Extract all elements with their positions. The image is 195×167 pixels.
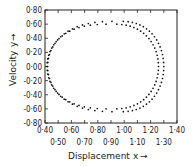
data-point — [156, 54, 158, 56]
data-point — [61, 96, 63, 98]
data-point — [163, 62, 165, 64]
data-point — [151, 33, 153, 35]
data-point — [65, 99, 67, 101]
y-tick-label: -0·60 — [23, 105, 42, 114]
data-point — [151, 98, 153, 100]
data-point — [94, 22, 96, 24]
x-tick-label: 0·60 — [63, 126, 79, 135]
data-point — [133, 27, 135, 29]
phase-portrait-chart: 0·800·600·400·200·00-0·20-0·40-0·60-0·80… — [0, 0, 195, 167]
data-point — [155, 81, 157, 83]
data-point — [127, 21, 129, 23]
data-point — [158, 89, 160, 91]
data-point — [158, 66, 160, 68]
plot-frame — [45, 10, 177, 123]
data-point — [154, 95, 156, 97]
data-point — [158, 62, 160, 64]
data-point — [159, 46, 161, 48]
data-point — [154, 36, 156, 38]
data-point — [52, 85, 54, 87]
data-point — [111, 111, 113, 113]
data-point — [72, 103, 74, 105]
data-point — [72, 28, 74, 30]
data-point — [78, 27, 80, 29]
data-point — [48, 74, 50, 76]
data-point — [163, 70, 165, 72]
data-point — [162, 54, 164, 56]
data-point — [146, 103, 148, 105]
data-point — [69, 101, 71, 103]
data-point — [125, 107, 127, 109]
data-point — [82, 107, 84, 109]
data-point — [133, 105, 135, 107]
data-point — [94, 110, 96, 112]
data-point — [162, 58, 164, 60]
data-point — [83, 25, 85, 27]
data-point — [150, 41, 152, 43]
data-point — [142, 26, 144, 28]
data-point — [105, 23, 107, 25]
data-point — [116, 108, 118, 110]
data-point — [47, 62, 49, 64]
data-point — [152, 87, 154, 89]
data-point — [162, 74, 164, 76]
data-point — [146, 96, 148, 98]
data-point — [83, 106, 85, 108]
data-point — [90, 24, 92, 26]
data-point — [139, 24, 141, 26]
data-point — [156, 92, 158, 94]
data-point — [57, 92, 59, 94]
data-point — [152, 44, 154, 46]
data-point — [105, 108, 107, 110]
data-point — [47, 70, 49, 72]
data-point — [125, 24, 127, 26]
data-point — [129, 25, 131, 27]
data-point — [135, 23, 137, 25]
data-point — [49, 78, 51, 80]
data-point — [65, 33, 67, 35]
data-point — [121, 108, 123, 110]
data-point — [121, 24, 123, 26]
data-point — [148, 38, 150, 40]
data-point — [157, 73, 159, 75]
data-point — [67, 30, 69, 32]
data-point — [149, 30, 151, 32]
data-point — [102, 110, 104, 112]
data-point — [76, 105, 78, 107]
data-point — [63, 98, 65, 100]
data-point — [47, 66, 49, 68]
x-tick-label: 1·20 — [143, 126, 159, 135]
data-point — [50, 50, 52, 52]
data-point — [54, 42, 56, 44]
data-point — [156, 77, 158, 79]
data-point — [158, 69, 160, 71]
data-point — [158, 42, 160, 44]
data-point — [140, 101, 142, 103]
data-point — [96, 24, 98, 26]
y-tick-label: -0·20 — [23, 77, 42, 86]
data-point — [55, 41, 57, 43]
data-point — [137, 28, 139, 30]
x-tick-label: 0·40 — [37, 126, 53, 135]
data-point — [53, 44, 55, 46]
data-point — [146, 35, 148, 37]
data-point — [87, 109, 89, 111]
data-point — [55, 91, 57, 93]
x-tick-label: 1·40 — [169, 126, 185, 135]
data-point — [123, 111, 125, 113]
y-axis-title: Velocity y → — [8, 33, 18, 86]
data-point — [154, 47, 156, 49]
y-tick-label: 0·60 — [26, 20, 42, 29]
data-point — [137, 103, 139, 105]
data-point — [159, 85, 161, 87]
data-point — [90, 107, 92, 109]
data-point — [53, 87, 55, 89]
data-point — [63, 33, 65, 35]
data-point — [135, 109, 137, 111]
y-tick-label: 0·40 — [26, 34, 42, 43]
data-point — [132, 110, 134, 112]
y-tick-label: 0·80 — [26, 6, 42, 15]
y-axis-title-text: Velocity — [8, 50, 18, 86]
data-point — [142, 105, 144, 107]
x-axis-var: x — [133, 151, 139, 161]
